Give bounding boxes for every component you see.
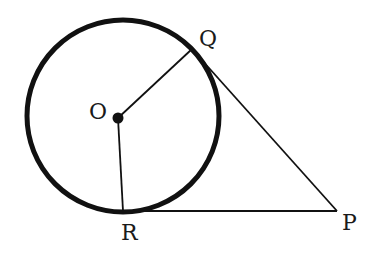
- background: [0, 0, 368, 253]
- tangent-circle-diagram: O Q R P: [0, 0, 368, 253]
- label-o: O: [89, 99, 107, 124]
- center-point-o: [113, 113, 124, 124]
- label-q: Q: [199, 26, 217, 51]
- label-p: P: [342, 210, 357, 235]
- label-r: R: [121, 220, 139, 245]
